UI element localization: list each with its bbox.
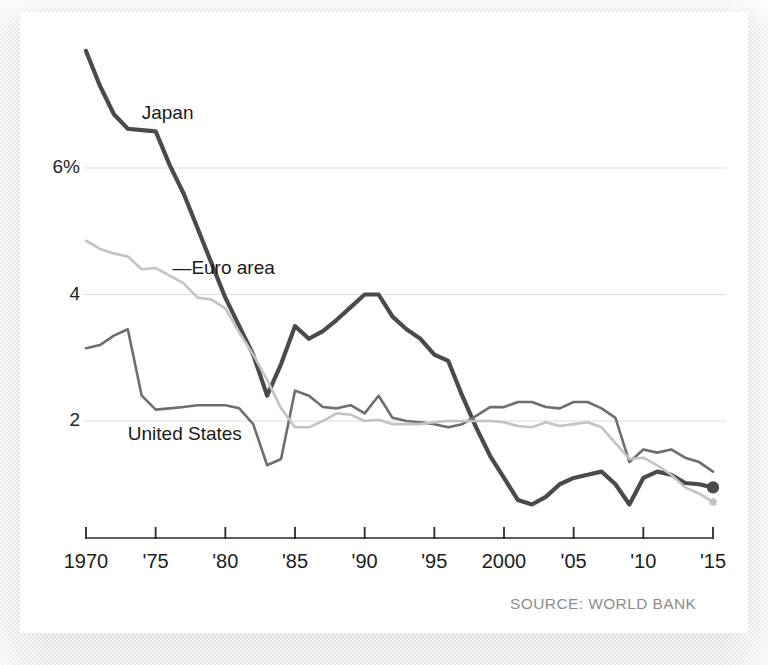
end-marker-euro-area: [709, 498, 717, 506]
series-line-united-states: [86, 329, 713, 471]
gridlines: [84, 168, 726, 421]
y-tick-label: 4: [28, 283, 80, 305]
series-line-euro-area: [86, 241, 713, 502]
y-tick-label: 6%: [28, 156, 80, 178]
series-label-japan: Japan: [142, 102, 194, 124]
series-label-united-states: United States: [128, 423, 242, 445]
y-tick-label: 2: [28, 409, 80, 431]
chart-figure: 246%1970'75'80'85'90'952000'05'10'15Japa…: [0, 0, 768, 665]
x-tick-label: '15: [668, 550, 758, 573]
series-label-euro-area: —Euro area: [172, 257, 274, 279]
source-note: SOURCE: WORLD BANK: [510, 595, 696, 613]
end-marker-japan: [707, 481, 719, 493]
end-markers: [707, 481, 719, 505]
x-axis-line: [86, 527, 713, 539]
